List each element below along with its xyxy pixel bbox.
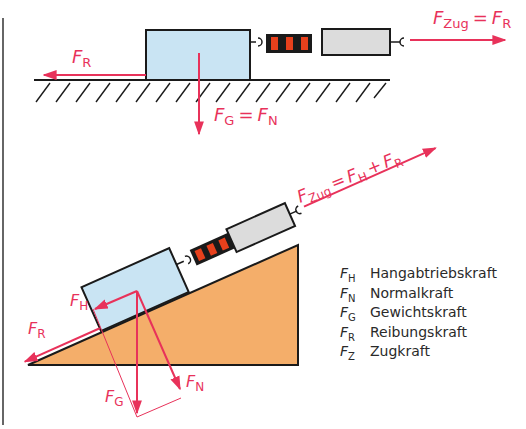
force-diagram: FR FG=FN FZug=FR (0, 0, 526, 429)
label-fzug-incline: FZug=FH+FR (294, 147, 405, 210)
legend-symbol: FG (340, 304, 370, 323)
legend-item-fn: FN Normalkraft (340, 285, 497, 305)
hook (295, 206, 302, 215)
horizontal-setup: FR FG=FN FZug=FR (34, 7, 511, 134)
spring-scale (226, 203, 295, 252)
legend: FH Hangabtriebskraft FN Normalkraft FG G… (340, 265, 497, 363)
label-fr-incline: FR (28, 319, 46, 341)
label-fn-incline: FN (186, 372, 204, 394)
label-fg-incline: FG (105, 387, 124, 409)
legend-symbol: FH (340, 265, 370, 284)
legend-text: Reibungskraft (370, 324, 467, 340)
legend-item-fh: FH Hangabtriebskraft (340, 265, 497, 285)
spring-scale (322, 29, 390, 55)
label-fr-top: FR (72, 46, 91, 70)
hook (400, 38, 404, 46)
legend-item-fg: FG Gewichtskraft (340, 304, 497, 324)
legend-item-fz: FZ Zugkraft (340, 343, 497, 363)
legend-text: Zugkraft (370, 343, 430, 359)
legend-text: Normalkraft (370, 285, 453, 301)
legend-symbol: FR (340, 324, 370, 343)
spring (190, 233, 235, 266)
svg-text:FZug=FH+FR: FZug=FH+FR (294, 147, 405, 210)
legend-item-fr: FR Reibungskraft (340, 324, 497, 344)
spring (266, 34, 312, 53)
legend-text: Hangabtriebskraft (370, 265, 497, 281)
label-fg-fn: FG=FN (214, 104, 278, 128)
hook (258, 38, 262, 46)
label-fzug-top: FZug=FR (433, 7, 511, 31)
legend-symbol: FN (340, 285, 370, 304)
hook (185, 255, 192, 264)
legend-symbol: FZ (340, 343, 370, 362)
legend-text: Gewichtskraft (370, 304, 467, 320)
ground-hatching (36, 83, 386, 102)
